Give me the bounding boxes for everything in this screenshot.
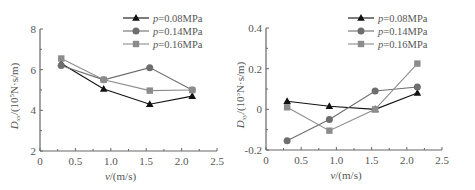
- legend-label: p=0.08MPa: [377, 13, 428, 24]
- circle-marker: [414, 83, 421, 90]
- square-marker: [58, 55, 64, 61]
- legend-label: p=0.14MPa: [377, 26, 428, 37]
- legend-label: p=0.14MPa: [152, 26, 203, 37]
- x-tick-label: 0.5: [69, 155, 83, 167]
- y-tick-label: 0.4: [248, 22, 262, 34]
- legend-label: p=0.08MPa: [152, 13, 203, 24]
- legend-item: p=0.14MPa: [348, 26, 428, 37]
- y-tick-label: 0: [257, 103, 263, 115]
- series-p-0-16mpa: [284, 60, 421, 134]
- legend-item: p=0.16MPa: [348, 39, 428, 50]
- triangle-marker: [283, 97, 291, 104]
- legend: p=0.08MPap=0.14MPap=0.16MPa: [123, 13, 203, 50]
- x-tick-label: 1.5: [365, 154, 379, 166]
- legend-item: p=0.08MPa: [348, 13, 428, 24]
- y-axis-label: Dxy/(105N·s/m): [237, 61, 248, 129]
- legend-item: p=0.16MPa: [123, 39, 203, 50]
- square-marker: [372, 106, 378, 112]
- triangle-legend-icon: [357, 14, 365, 21]
- square-marker: [326, 127, 332, 133]
- legend-item: p=0.14MPa: [123, 26, 203, 37]
- circle-marker: [58, 62, 65, 69]
- legend: p=0.08MPap=0.14MPap=0.16MPa: [348, 13, 428, 50]
- square-marker: [189, 87, 195, 93]
- x-tick-label: 0.5: [294, 154, 308, 166]
- x-tick-label: 0: [37, 155, 43, 167]
- square-marker: [147, 87, 153, 93]
- series-p-0-08mpa: [283, 89, 421, 112]
- x-tick-label: 2.0: [400, 154, 414, 166]
- y-tick-label: -0.2: [245, 144, 262, 156]
- circle-marker: [326, 116, 333, 123]
- triangle-marker: [100, 85, 108, 92]
- circle-marker: [146, 64, 153, 71]
- y-axis-label: Dxx/(105N·s/m): [8, 62, 22, 130]
- x-tick-label: 2.5: [210, 155, 224, 167]
- x-axis-label: v/(m/s): [105, 170, 137, 183]
- circle-marker: [372, 88, 379, 95]
- legend-item: p=0.08MPa: [123, 13, 203, 24]
- circle-marker: [284, 137, 291, 144]
- circle-legend-icon: [133, 28, 140, 35]
- chart-dxx: 246800.51.01.52.02.5v/(m/s)Dxx/(105N·s/m…: [0, 0, 237, 190]
- x-axis-label: v/(m/s): [330, 169, 362, 182]
- square-marker: [284, 104, 290, 110]
- x-tick-label: 1.5: [139, 155, 153, 167]
- x-tick-label: 2.5: [435, 154, 449, 166]
- chart-dxy: -0.200.20.400.51.01.52.02.5v/(m/s)Dxy/(1…: [237, 0, 475, 190]
- y-tick-label: 6: [31, 64, 37, 76]
- y-tick-label: 4: [31, 104, 37, 116]
- x-tick-label: 0: [263, 154, 269, 166]
- legend-label: p=0.16MPa: [377, 39, 428, 50]
- y-tick-label: 8: [31, 23, 37, 35]
- circle-legend-icon: [358, 28, 365, 35]
- square-legend-icon: [358, 41, 364, 47]
- x-tick-label: 1.0: [330, 154, 344, 166]
- square-marker: [101, 77, 107, 83]
- series-p-0-14mpa: [284, 83, 421, 144]
- x-tick-label: 2.0: [175, 155, 189, 167]
- y-tick-label: 0.2: [248, 63, 262, 75]
- y-tick-label: 2: [31, 145, 37, 157]
- triangle-legend-icon: [132, 14, 140, 21]
- square-marker: [414, 60, 420, 66]
- x-tick-label: 1.0: [104, 155, 118, 167]
- square-legend-icon: [133, 41, 139, 47]
- legend-label: p=0.16MPa: [152, 39, 203, 50]
